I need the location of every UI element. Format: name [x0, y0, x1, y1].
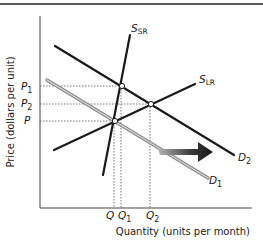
- quantity-label-q2: Q2: [146, 209, 159, 224]
- curve-label-ssr: SSR: [131, 22, 148, 36]
- point-initial: [112, 118, 117, 123]
- price-label-p1: P1: [21, 80, 32, 95]
- quantity-labels: Q Q1 Q2: [106, 209, 159, 224]
- price-labels: P1 P2 P: [21, 80, 32, 126]
- quantity-label-q1: Q1: [118, 209, 131, 224]
- curve-label-slr: SLR: [199, 73, 215, 87]
- short-run-supply-curve: [103, 35, 130, 175]
- y-axis-label: Price (dollars per unit): [5, 56, 16, 167]
- demand-curve-d1: [47, 80, 208, 178]
- long-run-supply-curve: [54, 84, 195, 150]
- guide-lines: [40, 86, 151, 208]
- quantity-label-q: Q: [106, 209, 114, 221]
- point-long-run: [148, 101, 153, 106]
- price-label-p: P: [24, 114, 31, 126]
- curve-label-d2: D2: [238, 151, 251, 166]
- supply-demand-diagram: Price (dollars per unit) P1 P2 P Q Q1 Q2…: [0, 0, 263, 240]
- shift-arrow-icon: [158, 142, 213, 162]
- curve-label-d1: D1: [209, 174, 222, 189]
- point-short-run: [119, 83, 124, 88]
- x-axis-label: Quantity (units per month): [116, 226, 250, 237]
- price-label-p2: P2: [21, 97, 32, 112]
